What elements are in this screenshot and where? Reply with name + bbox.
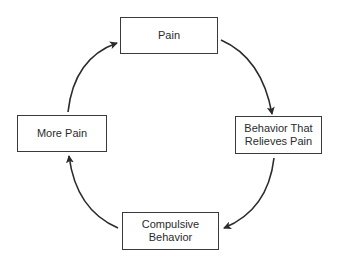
node-more-pain: More Pain (17, 115, 107, 152)
node-behavior-relieves-pain: Behavior That Relieves Pain (235, 116, 322, 154)
arrow-compulsive-to-morepain (69, 156, 118, 228)
node-pain: Pain (120, 17, 218, 54)
node-behavior-relieves-pain-label: Behavior That Relieves Pain (244, 122, 312, 148)
arrow-morepain-to-pain (68, 43, 117, 112)
pain-cycle-diagram: Pain Behavior That Relieves Pain Compuls… (0, 0, 339, 265)
node-more-pain-label: More Pain (37, 127, 87, 140)
node-pain-label: Pain (158, 29, 180, 42)
arrow-pain-to-behavior (221, 40, 272, 114)
node-compulsive-behavior-label: Compulsive Behavior (142, 218, 199, 244)
arrow-behavior-to-compulsive (224, 158, 274, 228)
node-compulsive-behavior: Compulsive Behavior (122, 212, 219, 250)
